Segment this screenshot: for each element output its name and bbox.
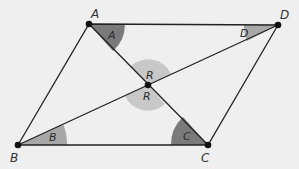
vertex-d-point (275, 22, 282, 29)
angle-b-label: B (49, 131, 57, 144)
vertex-a-label: A (90, 7, 99, 21)
angle-r-top-label: R (146, 69, 154, 82)
vertex-a-point (86, 21, 93, 28)
vertex-b-point (15, 142, 22, 149)
angle-d-label: D (240, 27, 248, 40)
intersection-point (145, 82, 152, 89)
angle-a-label: A (107, 29, 116, 42)
vertex-d-label: D (280, 8, 289, 22)
vertex-c-point (205, 142, 212, 149)
angle-a-sector (89, 24, 125, 51)
vertex-c-label: C (201, 151, 210, 165)
angle-c-label: C (183, 130, 191, 143)
vertex-b-label: B (10, 151, 18, 165)
angle-r-bottom-label: R (143, 90, 151, 103)
parallelogram-diagram: A D B C A D B C R R (0, 0, 299, 169)
